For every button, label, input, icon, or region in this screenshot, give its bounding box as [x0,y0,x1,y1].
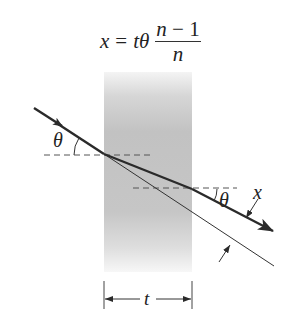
angle-arc-incident [74,138,79,155]
displacement-formula: x = tθ n − 1 n [100,18,201,65]
numerator-op: − [167,17,189,41]
thickness-label: t [144,289,149,308]
formula-lhs: x [100,29,109,54]
displacement-arrow-bottom [219,245,230,262]
angle-arc-exit [214,189,217,201]
displacement-label: x [253,182,262,202]
formula-factor: tθ [133,29,149,54]
formula-equals: = [115,29,127,54]
refraction-diagram: x = tθ n − 1 n θ θ x t [0,0,294,328]
theta-incident-label: θ [53,130,63,150]
incident-ray-part2 [58,124,104,154]
theta-exit-label: θ [219,190,229,210]
formula-fraction: n − 1 n [155,18,200,65]
numerator-var: n [156,17,167,41]
incident-ray-part1 [34,108,62,126]
formula-denominator: n [173,42,184,65]
formula-numerator: n − 1 [155,18,200,42]
numerator-const: 1 [189,17,200,41]
